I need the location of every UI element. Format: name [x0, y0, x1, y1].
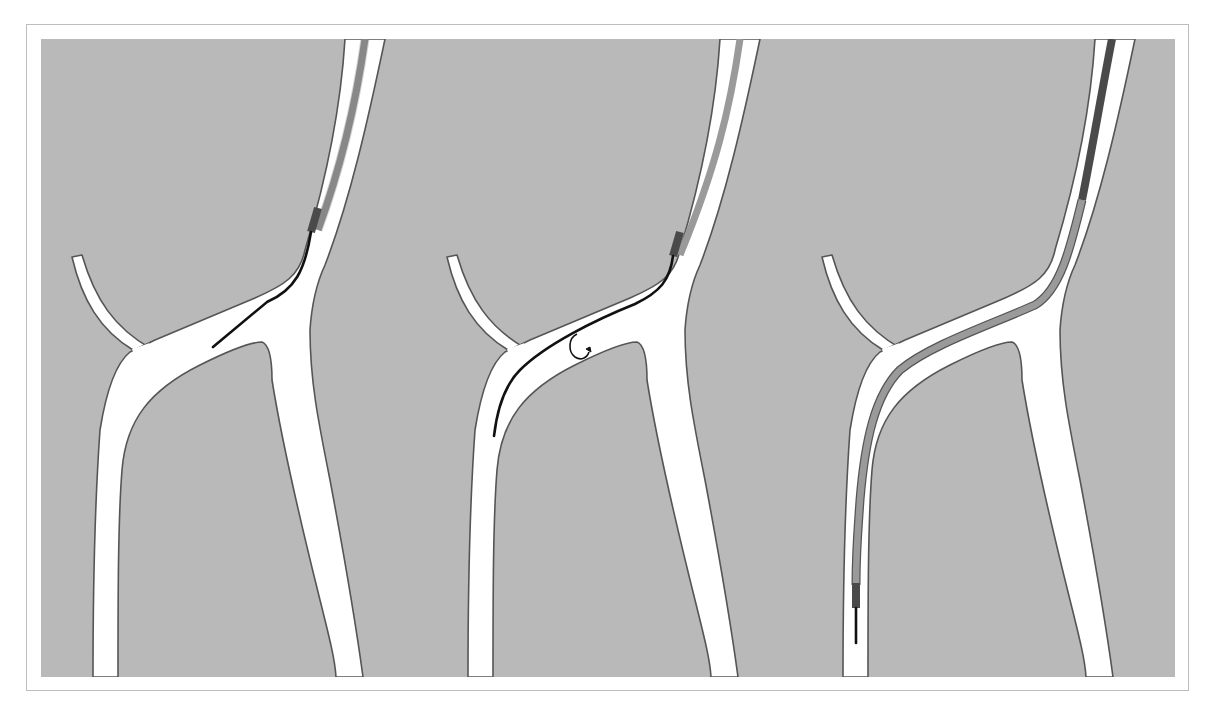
step-2-diagram	[447, 39, 760, 677]
illustration-panel	[41, 39, 1175, 677]
step-3-diagram	[822, 39, 1135, 677]
step-1-diagram	[72, 39, 385, 677]
